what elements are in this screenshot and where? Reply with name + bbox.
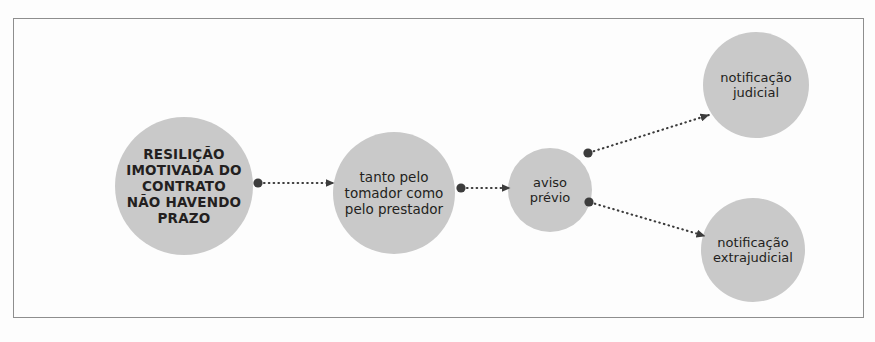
connector-aviso-to-extrajudicial xyxy=(584,197,705,236)
connector-aviso-to-judicial xyxy=(583,115,709,158)
node-circle-resilicao[interactable] xyxy=(115,117,253,255)
connector-resilicao-to-tomador xyxy=(253,178,334,187)
connector-origin-dot xyxy=(584,197,593,206)
diagram-canvas: RESILIÇÃO IMOTIVADA DO CONTRATO NÃO HAVE… xyxy=(0,0,875,342)
connector-dotted-line xyxy=(594,115,709,151)
nodes-layer xyxy=(115,32,809,302)
node-circle-notificacao-extrajudicial[interactable] xyxy=(701,198,805,302)
connector-origin-dot xyxy=(456,183,465,192)
connectors-layer xyxy=(253,115,709,236)
node-circle-aviso-previo[interactable] xyxy=(508,148,592,232)
node-circle-notificacao-judicial[interactable] xyxy=(703,32,809,138)
connector-origin-dot xyxy=(583,148,592,157)
connector-tomador-to-aviso xyxy=(456,183,510,192)
connector-origin-dot xyxy=(253,178,262,187)
diagram-graphic xyxy=(0,0,875,342)
node-circle-tomador-prestador[interactable] xyxy=(333,132,455,254)
connector-dotted-line xyxy=(595,204,705,236)
